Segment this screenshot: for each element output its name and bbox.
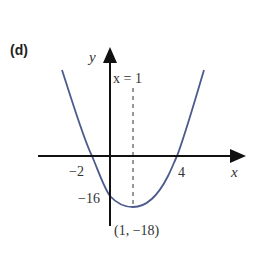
- y-axis-label: y: [87, 49, 96, 65]
- panel-label: (d): [10, 42, 28, 58]
- root-right-label: 4: [178, 165, 185, 180]
- y-intercept-label: −16: [78, 191, 100, 206]
- x-axis-label: x: [230, 164, 238, 180]
- symmetry-label: x = 1: [113, 71, 142, 86]
- y-axis-arrow-icon: [103, 47, 117, 63]
- parabola-figure: (d) y x x = 1 −2 4 −16 (1, −18): [0, 0, 262, 253]
- x-axis-arrow-icon: [230, 149, 246, 163]
- root-left-label: −2: [69, 164, 84, 179]
- vertex-label: (1, −18): [114, 223, 160, 239]
